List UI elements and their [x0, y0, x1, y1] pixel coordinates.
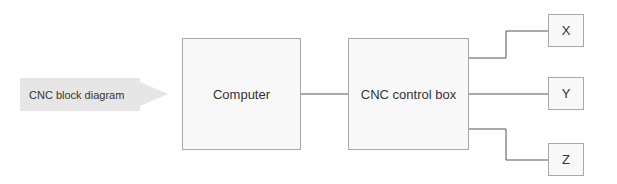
edge-control-x — [469, 31, 548, 58]
x-axis-label: X — [562, 23, 571, 38]
computer-node: Computer — [182, 38, 301, 150]
connector-lines — [0, 0, 617, 184]
y-axis-node: Y — [548, 77, 584, 110]
cnc-control-box-node: CNC control box — [348, 38, 469, 150]
y-axis-label: Y — [562, 86, 571, 101]
z-axis-label: Z — [562, 152, 570, 167]
cnc-control-box-label: CNC control box — [361, 87, 456, 102]
x-axis-node: X — [548, 14, 584, 47]
z-axis-node: Z — [548, 143, 584, 176]
computer-label: Computer — [213, 87, 270, 102]
edge-control-z — [469, 129, 548, 160]
